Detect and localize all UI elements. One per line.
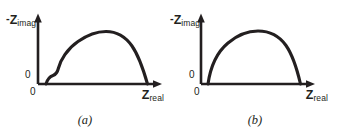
plot-panel-a: -Zimag Zreal 0 0 (a) <box>0 0 170 132</box>
nyquist-plot-figure: -Zimag Zreal 0 0 (a) -Zimag Zreal <box>0 0 340 132</box>
x-axis-subscript-b: real <box>313 93 328 103</box>
impedance-curve-b <box>208 31 301 84</box>
panel-caption-a: (a) <box>0 113 170 128</box>
impedance-curve-a <box>46 32 148 85</box>
x-axis-label-b: Zreal <box>306 89 328 103</box>
panel-caption-b: (b) <box>170 113 340 128</box>
x-axis-subscript-a: real <box>149 93 164 103</box>
x-axis-b <box>201 80 315 88</box>
y-axis-subscript-b: imag <box>181 18 200 28</box>
y-axis-label-a: -Zimag <box>6 13 36 28</box>
x-axis-origin-tick-b: 0 <box>194 87 200 97</box>
y-axis-origin-tick-a: 0 <box>25 70 31 80</box>
y-axis-label-b: -Zimag <box>170 13 200 28</box>
x-axis-label-a: Zreal <box>142 89 164 103</box>
y-axis-origin-tick-b: 0 <box>189 70 195 80</box>
x-axis-origin-tick-a: 0 <box>30 87 36 97</box>
plot-panel-b: -Zimag Zreal 0 0 (b) <box>170 0 340 132</box>
y-axis-subscript-a: imag <box>17 18 36 28</box>
